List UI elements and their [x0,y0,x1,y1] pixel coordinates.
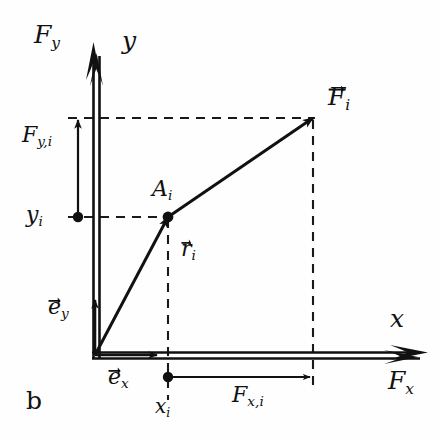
point-yi-dot [73,212,83,222]
x-coordinate-label: xi [155,396,170,419]
x-axis-label: x [390,306,404,331]
diagram-svg [0,0,440,440]
position-vector-label: ri [181,238,196,263]
force-component-x-label: Fx,i [232,384,264,409]
figure-canvas: Fy y Fy,i yi Ai ri Fi ey [0,0,440,440]
unit-vector-ey-label: ey [48,296,69,321]
force-component-y-label: Fy,i [22,124,52,149]
force-vector-label: Fi [328,84,350,113]
unit-vector-ex-label: ex [108,366,129,391]
figure-caption: b [26,388,42,413]
point-xi-dot [163,372,173,382]
point-ai-label: Ai [152,178,172,203]
y-axis-label: y [122,28,136,53]
point-ai-dot [163,212,174,223]
x-axis-force-label: Fx [388,368,414,397]
y-axis-force-label: Fy [34,22,60,51]
y-coordinate-label: yi [26,204,43,229]
position-vector-arrow [95,217,168,355]
force-vector-arrow [168,118,313,217]
